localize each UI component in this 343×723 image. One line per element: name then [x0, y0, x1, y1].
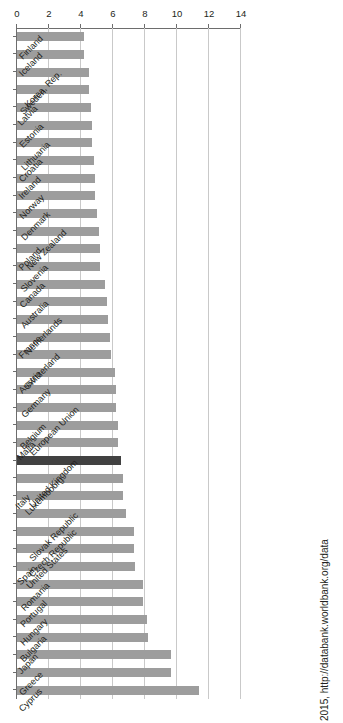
x-tick-mark [144, 24, 145, 28]
source-note: Source: World Development Indicators 201… [319, 539, 330, 723]
x-tick-label: 8 [132, 8, 158, 19]
category-label-text: United Kingdom [27, 457, 79, 509]
gridline [176, 28, 177, 699]
category-label: Finland [12, 32, 42, 42]
x-tick-label: 6 [100, 8, 126, 19]
category-label: Slovak Republic [12, 509, 77, 519]
x-tick-mark [112, 24, 113, 28]
source-note-container: Source: World Development Indicators 201… [319, 0, 341, 723]
x-tick-label: 12 [196, 8, 222, 19]
gridline [208, 28, 209, 699]
x-tick-mark [208, 24, 209, 28]
plot-area: 02468101214CyprusGreeceJapanBulgariaHung… [17, 28, 241, 699]
plot-wrapper: 02468101214CyprusGreeceJapanBulgariaHung… [0, 0, 302, 723]
gridline [240, 28, 241, 699]
x-tick-mark [240, 24, 241, 28]
x-tick-label: 14 [228, 8, 254, 19]
x-tick-mark [176, 24, 177, 28]
chart-figure: 02468101214CyprusGreeceJapanBulgariaHung… [0, 0, 343, 723]
category-label: Italy [12, 491, 29, 501]
rotated-bar-chart: 02468101214CyprusGreeceJapanBulgariaHung… [0, 0, 302, 723]
x-tick-mark [48, 24, 49, 28]
x-tick-label: 10 [164, 8, 190, 19]
x-tick-mark [80, 24, 81, 28]
x-tick-mark [16, 24, 17, 28]
x-tick-label: 2 [36, 8, 62, 19]
gridline [144, 28, 145, 699]
category-label: Belgium [12, 420, 45, 430]
x-tick-label: 4 [68, 8, 94, 19]
x-tick-label: 0 [4, 8, 30, 19]
bar-cyprus[interactable] [17, 686, 199, 695]
